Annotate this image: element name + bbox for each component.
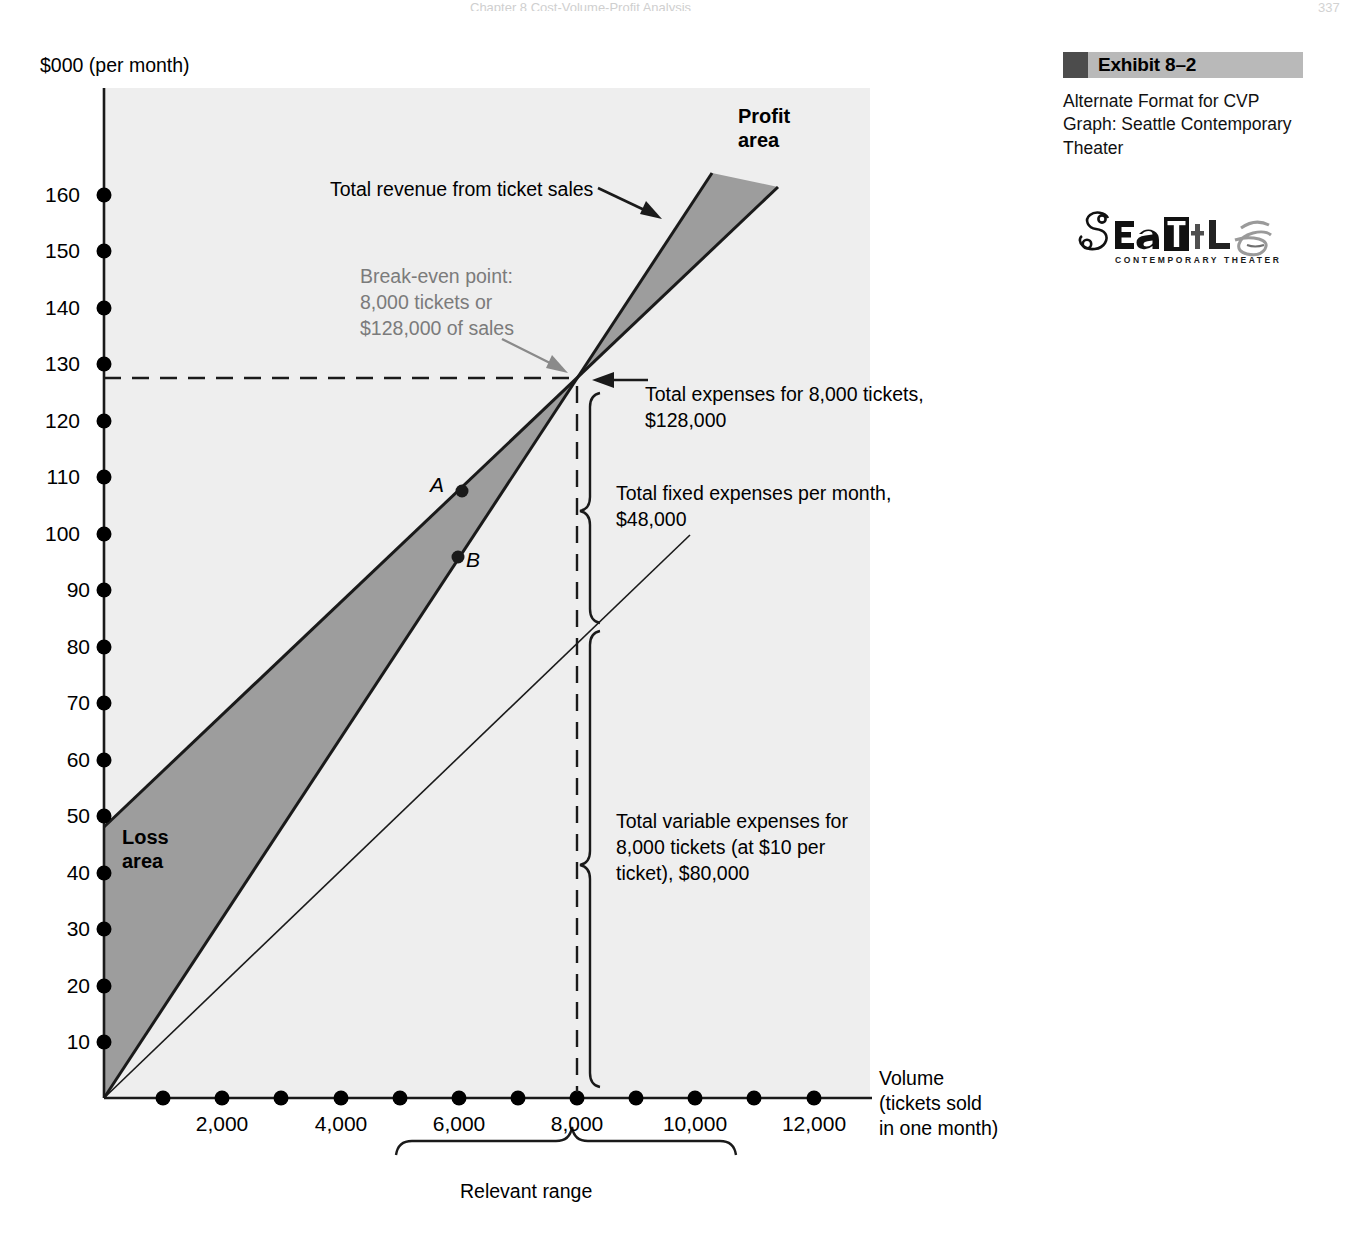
page-number: 337 bbox=[1318, 0, 1340, 15]
exhibit-label: Exhibit 8–2 bbox=[1088, 52, 1303, 78]
x-tick-label: 4,000 bbox=[291, 1112, 391, 1136]
y-tick-label: 20 bbox=[38, 974, 90, 998]
y-tick-label: 90 bbox=[38, 578, 90, 602]
profit-area-label: Profit area bbox=[738, 104, 790, 152]
data-point-b bbox=[452, 551, 465, 564]
y-tick-label: 40 bbox=[38, 861, 90, 885]
y-tick-label: 110 bbox=[28, 465, 80, 489]
logo-subtitle: CONTEMPORARY THEATER bbox=[1115, 255, 1282, 265]
y-tick-label: 10 bbox=[38, 1030, 90, 1054]
seattle-contemporary-theater-logo: CONTEMPORARY THEATER bbox=[1075, 208, 1300, 276]
data-point-a bbox=[456, 485, 469, 498]
variable-expenses-annotation: Total variable expenses for 8,000 ticket… bbox=[616, 809, 848, 887]
y-tick-label: 160 bbox=[28, 183, 80, 207]
y-tick-label: 80 bbox=[38, 635, 90, 659]
y-axis-title: $000 (per month) bbox=[40, 53, 190, 78]
fixed-expenses-annotation: Total fixed expenses per month, $48,000 bbox=[616, 481, 891, 533]
total-expenses-annotation: Total expenses for 8,000 tickets, $128,0… bbox=[645, 382, 1000, 434]
y-tick-label: 50 bbox=[38, 804, 90, 828]
exhibit-color-swatch bbox=[1063, 52, 1088, 78]
y-tick-label: 130 bbox=[28, 352, 80, 376]
y-tick-label: 30 bbox=[38, 917, 90, 941]
relevant-range-label: Relevant range bbox=[460, 1180, 592, 1203]
x-tick-label: 6,000 bbox=[409, 1112, 509, 1136]
exhibit-page: Chapter 8 Cost-Volume-Profit Analysis 33… bbox=[0, 0, 1362, 1239]
x-tick-label: 12,000 bbox=[764, 1112, 864, 1136]
x-tick-label: 10,000 bbox=[645, 1112, 745, 1136]
y-tick-label: 100 bbox=[28, 522, 80, 546]
x-tick-label: 8,000 bbox=[527, 1112, 627, 1136]
revenue-line-label: Total revenue from ticket sales bbox=[330, 177, 593, 203]
y-tick-label: 70 bbox=[38, 691, 90, 715]
point-b-label: B bbox=[466, 548, 480, 572]
logo-wordmark-graphic bbox=[1075, 208, 1300, 258]
break-even-annotation: Break-even point: 8,000 tickets or $128,… bbox=[360, 264, 514, 342]
cvp-chart: $000 (per month) Volume (tickets sold in… bbox=[0, 0, 1000, 1239]
plot-background bbox=[104, 88, 870, 1098]
y-tick-label: 140 bbox=[28, 296, 80, 320]
y-tick-label: 60 bbox=[38, 748, 90, 772]
exhibit-caption: Alternate Format for CVP Graph: Seattle … bbox=[1063, 90, 1303, 160]
y-tick-label: 120 bbox=[28, 409, 80, 433]
exhibit-panel: Exhibit 8–2 Alternate Format for CVP Gra… bbox=[1063, 52, 1303, 160]
x-axis-title: Volume (tickets sold in one month) bbox=[879, 1066, 1000, 1141]
exhibit-header: Exhibit 8–2 bbox=[1063, 52, 1303, 78]
loss-area-label: Loss area bbox=[122, 825, 169, 873]
y-tick-label: 150 bbox=[28, 239, 80, 263]
x-tick-label: 2,000 bbox=[172, 1112, 272, 1136]
point-a-label: A bbox=[430, 473, 444, 497]
